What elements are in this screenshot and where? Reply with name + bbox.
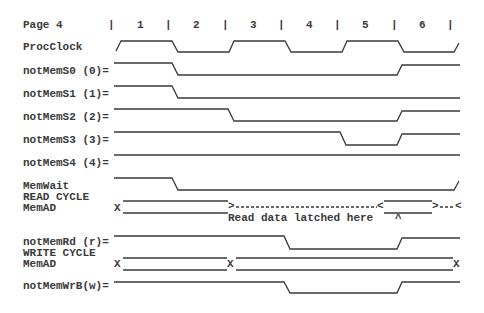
waveform-memad-write <box>123 258 453 270</box>
waveform-notmems1 <box>114 86 460 98</box>
waveform-notmems2 <box>114 109 460 121</box>
waveform-procclock <box>116 41 459 52</box>
waveform-notmems0 <box>114 63 460 75</box>
waveform-notmemrd <box>114 236 460 249</box>
waveform-memwait <box>114 178 459 190</box>
waveform-memad-read <box>123 201 454 213</box>
waveform-notmems3 <box>114 132 460 145</box>
waveform-notmemwrb <box>114 282 460 293</box>
timing-diagram <box>0 0 484 313</box>
